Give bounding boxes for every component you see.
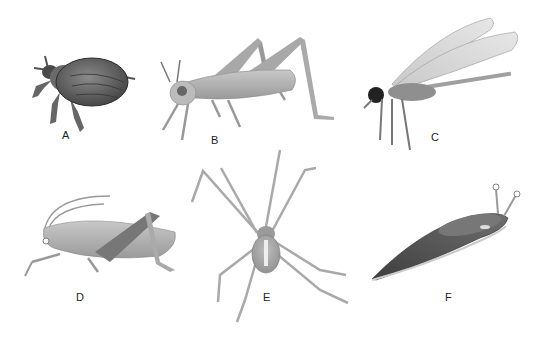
invertebrate-illustration: A B xyxy=(0,0,549,337)
cricket-drawing xyxy=(25,196,175,276)
dragonfly-drawing xyxy=(364,18,518,150)
slug-drawing xyxy=(372,184,520,280)
label-e: E xyxy=(263,291,270,303)
label-a: A xyxy=(62,129,70,141)
illustration-canvas: A B xyxy=(0,0,549,337)
label-d: D xyxy=(76,291,84,303)
grasshopper-drawing xyxy=(161,37,334,140)
label-b: B xyxy=(211,134,218,146)
label-c: C xyxy=(431,131,439,143)
label-f: F xyxy=(445,291,452,303)
beetle-drawing xyxy=(32,56,135,132)
